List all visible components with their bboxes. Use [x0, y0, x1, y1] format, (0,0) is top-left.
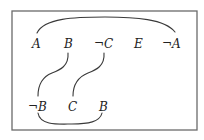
link-top-arc-A-notA: [37, 17, 175, 33]
literal-top-1: A: [31, 37, 41, 51]
literal-bottom-2: C: [68, 100, 77, 114]
literal-top-4: E: [133, 37, 143, 51]
link-s-curve-B-notB: [38, 53, 68, 96]
top-clause: A B ¬C E ¬A: [31, 37, 181, 51]
link-s-curve-notC-C: [73, 53, 104, 96]
literal-top-5: ¬A: [162, 37, 181, 51]
literal-top-2: B: [63, 37, 73, 51]
bottom-clause: ¬B C B: [28, 100, 108, 114]
literal-bottom-3: B: [98, 100, 108, 114]
literal-bottom-1: ¬B: [28, 100, 47, 114]
literal-top-3: ¬C: [94, 37, 113, 51]
link-bottom-arc-notB-B: [38, 113, 102, 124]
resolution-diagram: A B ¬C E ¬A ¬B C B: [0, 0, 204, 140]
